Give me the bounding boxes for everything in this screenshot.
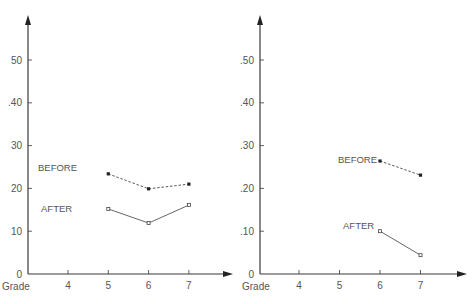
chart-panel-right: 0.10.20.30.40.504567GradeBEFOREAFTER: [240, 15, 467, 292]
y-tick-label: .30: [240, 140, 254, 151]
data-point-before: [107, 172, 110, 175]
data-point-after: [419, 254, 422, 257]
data-point-before: [147, 187, 150, 190]
y-axis-arrow: [257, 15, 263, 25]
series-label-after: AFTER: [343, 220, 374, 231]
x-axis-label: Grade: [2, 281, 30, 292]
series-label-before: BEFORE: [338, 154, 377, 165]
y-tick-label: 0: [248, 269, 254, 280]
series-label-before: BEFORE: [38, 162, 77, 173]
y-tick-label: .10: [240, 226, 254, 237]
x-tick-label: 5: [337, 280, 343, 291]
series-line-before: [108, 174, 189, 189]
x-tick-label: 5: [106, 280, 112, 291]
data-point-after: [107, 207, 110, 210]
y-tick-label: 50: [11, 55, 23, 66]
y-tick-label: .20: [240, 183, 254, 194]
chart-figure: 0102030.40504567GradeBEFOREAFTER 0.10.20…: [0, 0, 473, 304]
data-point-after: [147, 222, 150, 225]
y-tick-label: .50: [240, 55, 254, 66]
series-line-before: [380, 161, 421, 175]
y-axis-arrow: [25, 15, 31, 25]
y-tick-label: 0: [16, 269, 22, 280]
data-point-after: [379, 230, 382, 233]
data-point-before: [378, 159, 381, 162]
series-label-after: AFTER: [41, 203, 72, 214]
x-tick-label: 4: [296, 280, 302, 291]
data-point-before: [187, 183, 190, 186]
x-tick-label: 6: [146, 280, 152, 291]
x-tick-label: 4: [65, 280, 71, 291]
y-tick-label: 30: [11, 140, 23, 151]
series-line-after: [108, 205, 189, 223]
x-tick-label: 7: [186, 280, 192, 291]
x-axis-arrow: [457, 271, 467, 277]
x-axis-label: Grade: [242, 281, 270, 292]
x-axis-arrow: [223, 271, 233, 277]
x-tick-label: 7: [418, 280, 424, 291]
y-tick-label: 10: [11, 226, 23, 237]
y-tick-label: 20: [11, 183, 23, 194]
y-tick-label: .40: [240, 97, 254, 108]
data-point-after: [187, 204, 190, 207]
chart-panel-left: 0102030.40504567GradeBEFOREAFTER: [2, 15, 233, 292]
data-point-before: [419, 174, 422, 177]
series-line-after: [380, 231, 421, 255]
x-tick-label: 6: [377, 280, 383, 291]
y-tick-label: .40: [8, 97, 22, 108]
